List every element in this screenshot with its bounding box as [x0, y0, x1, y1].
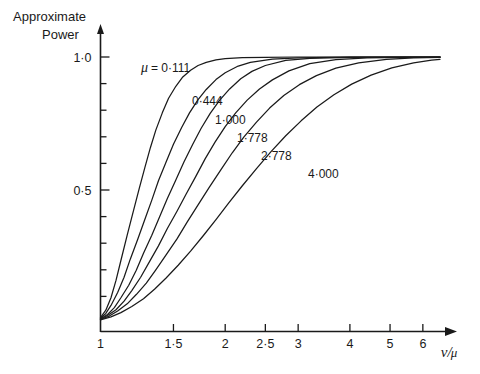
x-axis-tick-labels: 11·522·53456 [97, 337, 426, 351]
x-axis-arrowhead [445, 327, 457, 336]
y-tick-label-9: 1·0 [73, 51, 91, 65]
x-tick-label-4: 3 [295, 337, 302, 351]
y-axis-title-line-2: Power [42, 27, 80, 42]
power-curve-figure: Approximate Power 0·51·0 11·522·53456 μ=… [0, 0, 480, 374]
y-axis-arrowhead [97, 24, 104, 34]
x-axis-ticks [173, 324, 422, 332]
y-axis-ticks [101, 57, 110, 296]
curve-labels-group: μ= 0·1110·4441·0001·7782·7784·000 [140, 60, 339, 181]
chart-canvas: Approximate Power 0·51·0 11·522·53456 μ=… [0, 0, 480, 374]
x-axis-label: ν/μ [441, 344, 458, 360]
x-tick-label-0: 1 [97, 337, 104, 351]
power-curves-group [101, 57, 441, 320]
y-axis-tick-labels: 0·51·0 [73, 51, 91, 198]
power-curve-1 [101, 57, 441, 318]
power-curve-6 [101, 59, 441, 319]
curve-label-1: μ= 0·111 [140, 60, 191, 75]
power-curve-2 [101, 57, 441, 318]
power-curve-3 [101, 57, 441, 319]
curve-label-5: 2·778 [261, 149, 292, 163]
x-tick-label-3: 2·5 [256, 337, 274, 351]
x-tick-label-2: 2 [222, 337, 229, 351]
y-tick-label-4: 0·5 [73, 184, 91, 198]
curve-label-3: 1·000 [215, 113, 246, 127]
y-axis-title-line-1: Approximate [13, 9, 86, 24]
y-axis-title: Approximate Power [13, 9, 86, 42]
power-curve-5 [101, 57, 441, 319]
curve-label-6: 4·000 [308, 167, 339, 181]
x-tick-label-6: 5 [387, 337, 394, 351]
x-tick-label-7: 6 [419, 337, 426, 351]
curve-label-4: 1·778 [237, 131, 268, 145]
x-tick-label-1: 1·5 [164, 337, 182, 351]
curve-label-2: 0·444 [192, 94, 223, 108]
x-tick-label-5: 4 [346, 337, 353, 351]
power-curve-4 [101, 57, 441, 319]
